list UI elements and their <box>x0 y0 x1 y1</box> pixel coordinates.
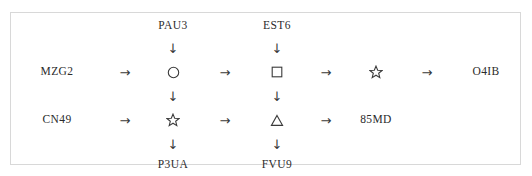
star-icon <box>369 65 383 79</box>
right-arrow-icon: → <box>120 114 131 127</box>
grid-cell-empty <box>349 153 403 176</box>
grid-cell-empty <box>403 39 451 57</box>
node-label-p3ua: P3UA <box>147 153 199 176</box>
node-shape-star-row2 <box>147 105 199 135</box>
down-arrow-square-to-triangle: ↓ <box>251 87 303 105</box>
grid-cell-empty <box>403 153 451 176</box>
grid-cell-empty <box>303 39 349 57</box>
right-arrow-icon: → <box>220 66 231 79</box>
down-arrow-triangle-to-fvu9: ↓ <box>251 135 303 153</box>
85md-text: 85MD <box>360 114 392 126</box>
right-arrow-star-to-triangle: → <box>199 105 251 135</box>
grid-cell-empty <box>103 135 147 153</box>
grid-cell-empty <box>403 105 451 135</box>
grid-cell-empty <box>451 105 521 135</box>
grid-cell-empty <box>199 153 251 176</box>
grid-cell-empty <box>403 87 451 105</box>
down-arrow-icon: ↓ <box>168 138 179 151</box>
triangle-icon <box>270 114 284 127</box>
pau3-text: PAU3 <box>158 20 187 32</box>
node-label-fvu9: FVU9 <box>251 153 303 176</box>
grid-cell-empty <box>11 39 103 57</box>
right-arrow-cn49-to-star: → <box>103 105 147 135</box>
node-label-est6: EST6 <box>251 13 303 39</box>
o4ib-text: O4IB <box>472 66 499 78</box>
grid-cell-empty <box>451 13 521 39</box>
grid-cell-empty <box>11 153 103 176</box>
right-arrow-circle-to-square: → <box>199 57 251 87</box>
cn49-text: CN49 <box>42 114 71 126</box>
grid-cell-empty <box>103 87 147 105</box>
grid-cell-empty <box>199 135 251 153</box>
grid-cell-empty <box>349 39 403 57</box>
node-label-cn49: CN49 <box>11 105 103 135</box>
grid-cell-empty <box>103 39 147 57</box>
down-arrow-pau3-to-circle: ↓ <box>147 39 199 57</box>
grid-cell-empty <box>103 153 147 176</box>
grid-cell-empty <box>349 135 403 153</box>
right-arrow-square-to-star: → <box>303 57 349 87</box>
right-arrow-icon: → <box>321 114 332 127</box>
grid-cell-empty <box>303 153 349 176</box>
grid-cell-empty <box>103 13 147 39</box>
grid-cell-empty <box>303 87 349 105</box>
grid-cell-empty <box>451 87 521 105</box>
circle-icon <box>167 66 180 79</box>
mzg2-text: MZG2 <box>41 66 74 78</box>
right-arrow-icon: → <box>321 66 332 79</box>
down-arrow-icon: ↓ <box>168 90 179 103</box>
down-arrow-icon: ↓ <box>272 90 283 103</box>
node-shape-star-row1 <box>349 57 403 87</box>
down-arrow-icon: ↓ <box>272 42 283 55</box>
right-arrow-icon: → <box>422 66 433 79</box>
grid-cell-empty <box>451 39 521 57</box>
grid-cell-empty <box>11 87 103 105</box>
node-shape-triangle <box>251 105 303 135</box>
down-arrow-icon: ↓ <box>272 138 283 151</box>
star-icon <box>166 113 180 127</box>
right-arrow-icon: → <box>120 66 131 79</box>
grid-cell-empty <box>11 135 103 153</box>
down-arrow-est6-to-square: ↓ <box>251 39 303 57</box>
grid-cell-empty <box>451 153 521 176</box>
grid-cell-empty <box>199 87 251 105</box>
p3ua-text: P3UA <box>158 159 188 171</box>
down-arrow-circle-to-star: ↓ <box>147 87 199 105</box>
grid-cell-empty <box>451 135 521 153</box>
node-label-pau3: PAU3 <box>147 13 199 39</box>
node-label-o4ib: O4IB <box>451 57 521 87</box>
grid-cell-empty <box>303 13 349 39</box>
down-arrow-icon: ↓ <box>168 42 179 55</box>
node-label-mzg2: MZG2 <box>11 57 103 87</box>
node-label-85md: 85MD <box>349 105 403 135</box>
down-arrow-star-to-p3ua: ↓ <box>147 135 199 153</box>
grid-cell-empty <box>303 135 349 153</box>
diagram-frame: PAU3 EST6 ↓ ↓ MZG2 → <box>10 12 521 165</box>
grid-cell-empty <box>199 39 251 57</box>
right-arrow-triangle-to-85md: → <box>303 105 349 135</box>
grid-cell-empty <box>199 13 251 39</box>
right-arrow-star-to-o4ib: → <box>403 57 451 87</box>
grid-cell-empty <box>349 13 403 39</box>
right-arrow-icon: → <box>220 114 231 127</box>
grid-cell-empty <box>403 13 451 39</box>
grid-cell-empty <box>11 13 103 39</box>
node-shape-square <box>251 57 303 87</box>
square-icon <box>271 66 283 78</box>
grid-cell-empty <box>403 135 451 153</box>
node-shape-circle <box>147 57 199 87</box>
right-arrow-mzg2-to-circle: → <box>103 57 147 87</box>
diagram-grid: PAU3 EST6 ↓ ↓ MZG2 → <box>11 13 520 164</box>
est6-text: EST6 <box>263 20 291 32</box>
grid-cell-empty <box>349 87 403 105</box>
fvu9-text: FVU9 <box>262 159 292 171</box>
